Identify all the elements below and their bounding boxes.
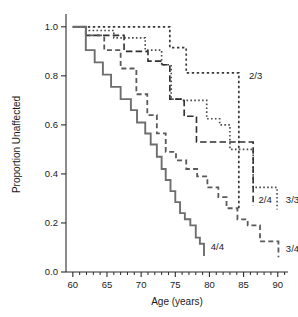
x-tick-label: 65: [102, 279, 113, 290]
curve-3-3: [73, 27, 277, 210]
curve-label-4-4: 4/4: [211, 241, 224, 252]
y-tick-label: 0.2: [45, 217, 58, 228]
x-tick-label: 80: [204, 279, 215, 290]
y-axis-title: Proportion Unaffected: [11, 96, 22, 193]
curve-label-2-4: 2/4: [259, 194, 272, 205]
y-tick-label: 1.0: [45, 21, 58, 32]
curve-3-4: [73, 27, 279, 257]
x-tick-label: 90: [272, 279, 283, 290]
x-axis-title: Age (years): [151, 296, 203, 307]
curve-label-3-3: 3/3: [286, 194, 298, 205]
x-tick-label: 85: [238, 279, 249, 290]
curve-4-4: [73, 27, 204, 256]
y-tick-label: 0.0: [45, 266, 58, 277]
curve-2-3: [73, 27, 239, 210]
curve-label-3-4: 3/4: [286, 243, 298, 254]
y-tick-label: 0.4: [45, 168, 58, 179]
curve-2-4: [73, 27, 253, 206]
survival-curve-figure: 0.00.20.40.60.81.060657075808590Age (yea…: [0, 0, 298, 317]
x-tick-label: 60: [68, 279, 79, 290]
x-tick-label: 75: [170, 279, 181, 290]
y-tick-label: 0.8: [45, 70, 58, 81]
curve-label-2-3: 2/3: [249, 70, 262, 81]
x-tick-label: 70: [136, 279, 147, 290]
kaplan-meier-plot: 0.00.20.40.60.81.060657075808590Age (yea…: [0, 0, 298, 317]
y-tick-label: 0.6: [45, 119, 58, 130]
